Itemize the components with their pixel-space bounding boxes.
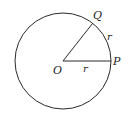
circle-diagram: Q r P O r <box>0 0 128 114</box>
label-q: Q <box>93 9 102 22</box>
diagram-canvas: Q r P O r <box>0 0 128 114</box>
label-radius-r: r <box>83 63 89 74</box>
radius-oq <box>63 24 93 62</box>
label-arc-r: r <box>107 31 113 42</box>
label-p: P <box>112 55 121 68</box>
label-o: O <box>53 64 62 77</box>
